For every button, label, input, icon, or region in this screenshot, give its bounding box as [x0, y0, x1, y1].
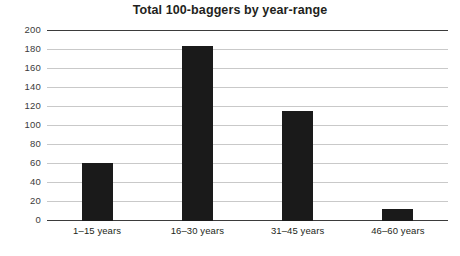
bar [82, 163, 113, 221]
bar [282, 111, 313, 221]
bar-chart-figure: Total 100-baggers by year-range 02040608… [0, 0, 460, 256]
y-tick-label: 80 [5, 139, 41, 149]
chart-title: Total 100-baggers by year-range [0, 3, 460, 17]
bar [182, 46, 213, 221]
y-tick-label: 160 [5, 63, 41, 73]
y-tick-label: 200 [5, 25, 41, 35]
y-tick-label: 100 [5, 120, 41, 130]
x-tick-label: 46–60 years [348, 226, 448, 236]
y-tick-label: 40 [5, 177, 41, 187]
y-tick-label: 180 [5, 44, 41, 54]
y-tick-label: 120 [5, 101, 41, 111]
x-axis-tick-labels: 1–15 years16–30 years31–45 years46–60 ye… [47, 226, 448, 246]
x-tick-label: 31–45 years [248, 226, 348, 236]
y-tick-label: 20 [5, 196, 41, 206]
y-tick-label: 60 [5, 158, 41, 168]
bars-layer [47, 30, 448, 221]
y-tick-label: 140 [5, 82, 41, 92]
bar [382, 209, 413, 221]
x-tick-label: 1–15 years [47, 226, 147, 236]
x-tick-label: 16–30 years [147, 226, 247, 236]
y-tick-label: 0 [5, 215, 41, 225]
